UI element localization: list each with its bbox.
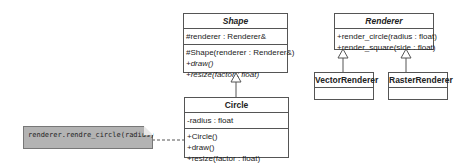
operation: +draw() [187, 142, 286, 153]
class-name: Shape [184, 14, 287, 29]
note-fold-icon [144, 126, 153, 135]
attribute: #renderer : Renderer& [186, 31, 285, 42]
operations-section: +Circle() +draw() +resize(factor : float… [185, 129, 288, 165]
class-name: RasterRenderer [389, 73, 447, 88]
operation: +render_square(side : float) [337, 42, 431, 53]
class-circle[interactable]: Circle -radius : float +Circle() +draw()… [184, 97, 289, 158]
operation: +draw() [186, 58, 285, 69]
attributes-section: #renderer : Renderer& [184, 29, 287, 45]
class-shape[interactable]: Shape #renderer : Renderer& #Shape(rende… [183, 13, 288, 73]
attribute: -radius : float [187, 115, 286, 126]
operation: +resize(factor : float) [186, 69, 285, 80]
operations-section: #Shape(renderer : Renderer&) +draw() +re… [184, 45, 287, 82]
class-renderer[interactable]: Renderer +render_circle(radius : float) … [334, 13, 434, 50]
operation: #Shape(renderer : Renderer&) [186, 47, 285, 58]
note[interactable]: renderer.rendre_circle(radius) [23, 126, 153, 149]
class-name: Circle [185, 98, 288, 113]
class-raster-renderer[interactable]: RasterRenderer [388, 72, 448, 100]
class-vector-renderer[interactable]: VectorRenderer [314, 72, 374, 100]
operation: +render_circle(radius : float) [337, 31, 431, 42]
class-name: Renderer [335, 14, 433, 29]
note-text: renderer.rendre_circle(radius) [28, 131, 154, 139]
attributes-section: -radius : float [185, 113, 288, 129]
operation: +resize(factor : float) [187, 153, 286, 164]
operation: +Circle() [187, 131, 286, 142]
operations-section: +render_circle(radius : float) +render_s… [335, 29, 433, 55]
class-name: VectorRenderer [315, 73, 373, 88]
